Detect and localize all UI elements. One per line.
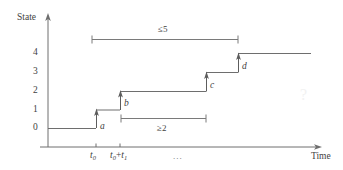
transition-arrowheads <box>94 53 241 117</box>
transition-label-d: d <box>242 62 247 72</box>
watermark-artifact: ? <box>300 86 307 104</box>
step-function-path <box>48 54 311 129</box>
x-axis-ellipsis: ... <box>173 152 183 161</box>
x-axis-ticks <box>96 144 120 148</box>
y-tick-label-3: 3 <box>33 67 38 77</box>
bracket-upper-label: ≤5 <box>158 25 167 34</box>
y-tick-label-4: 4 <box>33 48 38 58</box>
transition-label-a: a <box>100 122 105 132</box>
state-time-step-diagram: State Time 4 3 2 1 0 t0 t0+t1 ... a b c … <box>0 0 343 170</box>
x-tick-label-t0t1-sub-b: 1 <box>124 154 127 161</box>
y-tick-label-1: 1 <box>33 105 38 115</box>
x-tick-label-t0-sub: 0 <box>93 154 96 161</box>
bracket-lower-label: ≥2 <box>157 124 166 133</box>
diagram-canvas <box>0 0 343 170</box>
annotation-bracket-upper <box>92 36 238 44</box>
x-tick-label-t0: t0 <box>90 151 96 161</box>
annotation-bracket-lower <box>121 115 206 123</box>
y-tick-label-2: 2 <box>33 86 38 96</box>
axes-group <box>40 17 316 147</box>
x-tick-label-t0t1: t0+t1 <box>110 151 127 161</box>
x-axis-label: Time <box>311 152 331 162</box>
transition-label-c: c <box>210 81 214 91</box>
y-axis-label: State <box>17 13 36 23</box>
transition-label-b: b <box>124 99 129 109</box>
y-tick-label-0: 0 <box>33 123 38 133</box>
